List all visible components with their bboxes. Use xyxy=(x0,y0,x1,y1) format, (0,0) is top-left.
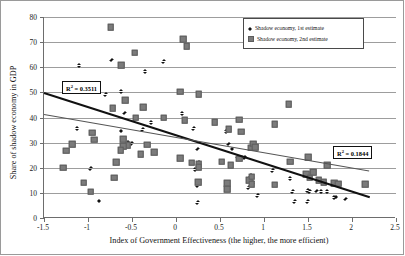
x-tick xyxy=(264,218,265,222)
x-tick xyxy=(396,218,397,222)
x-tick xyxy=(88,218,89,222)
data-point-2nd-estimate xyxy=(195,179,202,186)
x-tick xyxy=(352,218,353,222)
y-tick xyxy=(40,193,44,194)
gridline xyxy=(44,67,396,68)
data-point-2nd-estimate xyxy=(151,149,158,156)
y-tick xyxy=(40,67,44,68)
data-point-1st-estimate xyxy=(325,187,329,191)
data-point-2nd-estimate xyxy=(122,97,129,104)
y-tick-label: 60 xyxy=(3,63,37,72)
x-tick-label: 2.5 xyxy=(390,223,399,232)
y-tick-label: 70 xyxy=(3,38,37,47)
data-point-2nd-estimate xyxy=(91,136,98,143)
data-point-1st-estimate xyxy=(306,197,310,201)
x-tick xyxy=(132,218,133,222)
data-point-2nd-estimate xyxy=(248,173,255,180)
r2-box-2nd: R2 = 0.1844 xyxy=(333,146,372,159)
y-tick xyxy=(40,143,44,144)
data-point-1st-estimate xyxy=(104,90,108,94)
data-point-2nd-estimate xyxy=(362,181,369,188)
data-point-1st-estimate xyxy=(196,145,200,149)
legend-label: Shadow economy, 2nd estimate xyxy=(257,36,328,42)
data-point-1st-estimate xyxy=(162,57,166,61)
data-point-1st-estimate xyxy=(77,61,81,65)
data-point-2nd-estimate xyxy=(238,129,245,136)
x-tick-label: 0 xyxy=(173,223,177,232)
y-tick-label: 10 xyxy=(3,188,37,197)
data-point-1st-estimate xyxy=(149,118,153,122)
y-tick-label: 50 xyxy=(3,88,37,97)
x-tick-label: 1.5 xyxy=(302,223,311,232)
data-point-1st-estimate xyxy=(344,195,348,199)
data-point-1st-estimate xyxy=(75,124,79,128)
data-point-2nd-estimate xyxy=(180,36,187,43)
data-point-2nd-estimate xyxy=(108,24,115,31)
data-point-2nd-estimate xyxy=(131,49,138,56)
gridline xyxy=(44,168,396,169)
gridline xyxy=(44,118,396,119)
data-point-2nd-estimate xyxy=(182,117,189,124)
data-point-1st-estimate xyxy=(319,187,323,191)
data-point-1st-estimate xyxy=(196,198,200,202)
data-point-2nd-estimate xyxy=(196,91,203,98)
x-tick-label: 2 xyxy=(349,223,353,232)
diamond-marker-icon xyxy=(248,25,252,29)
data-point-1st-estimate xyxy=(97,197,101,201)
data-point-2nd-estimate xyxy=(271,181,278,188)
data-point-2nd-estimate xyxy=(63,147,70,154)
data-point-2nd-estimate xyxy=(227,162,234,169)
y-tick-label: 0 xyxy=(3,214,37,223)
data-point-1st-estimate xyxy=(123,109,127,113)
square-marker-icon xyxy=(248,36,254,42)
x-tick-label: -1.5 xyxy=(37,223,49,232)
x-tick-label: -0.5 xyxy=(125,223,137,232)
data-point-2nd-estimate xyxy=(113,159,120,166)
trendline xyxy=(44,92,370,198)
data-point-1st-estimate xyxy=(293,197,297,201)
y-tick-label: 20 xyxy=(3,163,37,172)
data-point-1st-estimate xyxy=(119,87,123,91)
data-point-1st-estimate xyxy=(256,191,260,195)
y-tick xyxy=(40,17,44,18)
legend-item-2nd-estimate: Shadow economy, 2nd estimate xyxy=(248,36,359,42)
data-point-1st-estimate xyxy=(308,187,312,191)
x-axis-title: Index of Government Effectiveness (the h… xyxy=(43,236,395,245)
y-tick xyxy=(40,118,44,119)
data-point-2nd-estimate xyxy=(287,158,294,165)
data-point-2nd-estimate xyxy=(144,141,151,148)
data-point-2nd-estimate xyxy=(177,155,184,162)
data-point-2nd-estimate xyxy=(109,105,116,112)
y-tick-label: 40 xyxy=(3,113,37,122)
data-point-2nd-estimate xyxy=(177,89,184,96)
data-point-1st-estimate xyxy=(89,164,93,168)
data-point-2nd-estimate xyxy=(196,164,203,171)
data-point-2nd-estimate xyxy=(60,164,67,171)
data-point-2nd-estimate xyxy=(118,62,125,69)
data-point-2nd-estimate xyxy=(117,147,124,154)
data-point-1st-estimate xyxy=(180,109,184,113)
data-point-2nd-estimate xyxy=(111,174,118,181)
x-tick xyxy=(308,218,309,222)
x-tick xyxy=(220,218,221,222)
data-point-1st-estimate xyxy=(227,140,231,144)
y-tick-label: 30 xyxy=(3,138,37,147)
data-point-2nd-estimate xyxy=(226,126,233,133)
x-tick-label: 0.5 xyxy=(214,223,223,232)
data-point-2nd-estimate xyxy=(271,121,278,128)
legend-item-1st-estimate: Shadow economy, 1st estimate xyxy=(248,25,359,31)
data-point-1st-estimate xyxy=(192,124,196,128)
r2-box-1st: R2 = 0.3511 xyxy=(62,81,101,94)
data-point-2nd-estimate xyxy=(248,181,255,188)
x-tick-label: -1 xyxy=(84,223,90,232)
y-tick xyxy=(40,42,44,43)
data-point-2nd-estimate xyxy=(189,159,196,166)
x-tick-label: 1 xyxy=(261,223,265,232)
gridline xyxy=(44,193,396,194)
data-point-2nd-estimate xyxy=(218,158,225,165)
data-point-2nd-estimate xyxy=(89,129,96,136)
data-point-2nd-estimate xyxy=(224,186,231,193)
data-point-2nd-estimate xyxy=(211,119,218,126)
legend-label: Shadow economy, 1st estimate xyxy=(255,25,324,31)
data-point-2nd-estimate xyxy=(140,104,147,111)
